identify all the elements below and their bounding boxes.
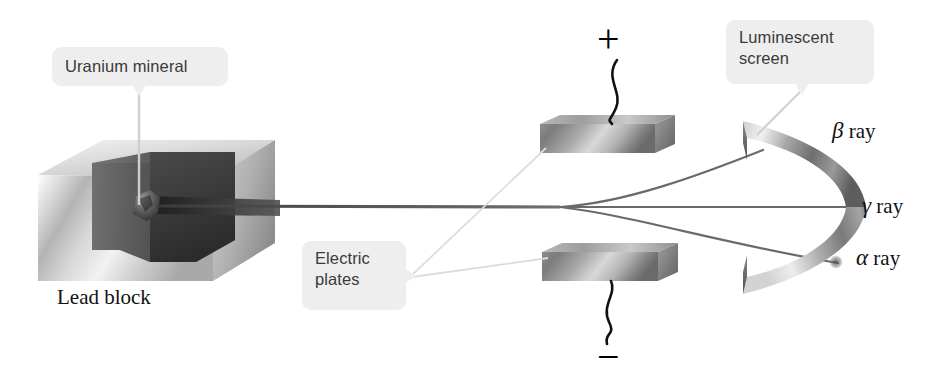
- beta-ray-text: ray: [843, 119, 875, 143]
- callout-uranium-mineral: Uranium mineral: [52, 47, 228, 86]
- collimated-beam: [157, 206, 560, 207]
- label-alpha-ray: α ray: [856, 245, 900, 271]
- leader-line-screen: [757, 92, 800, 135]
- electric-plate-positive: [540, 115, 675, 153]
- positive-polarity-sign: +: [597, 19, 620, 59]
- bottom-plate-top-face: [542, 243, 678, 252]
- beta-ray-path: [560, 150, 763, 207]
- alpha-ray-text: ray: [868, 246, 900, 270]
- screen-band-lower: [743, 207, 866, 294]
- gamma-symbol: γ: [862, 193, 871, 218]
- leader-line-plate-top: [412, 148, 546, 275]
- negative-polarity-sign: −: [597, 337, 620, 377]
- electric-plate-negative: [542, 243, 678, 281]
- lead-block: [38, 140, 280, 281]
- callout-electric-plates: Electric plates: [302, 241, 406, 310]
- beta-symbol: β: [832, 118, 843, 143]
- positive-plate-wire: [609, 60, 617, 124]
- label-gamma-ray: γ ray: [862, 193, 903, 219]
- leader-line-plate-bottom: [412, 258, 548, 277]
- alpha-symbol: α: [856, 245, 868, 270]
- radioactivity-separation-figure: Uranium mineral Luminescent screen Elect…: [0, 0, 943, 386]
- callout-luminescent-screen: Luminescent screen: [726, 20, 874, 84]
- top-plate-top-face: [540, 115, 675, 124]
- label-lead-block: Lead block: [57, 285, 151, 310]
- top-plate-front-face: [540, 124, 655, 153]
- callout-tail-uranium: [132, 85, 146, 96]
- label-beta-ray: β ray: [832, 118, 876, 144]
- bottom-plate-front-face: [542, 252, 658, 281]
- alpha-impact-spot: [829, 255, 843, 269]
- gamma-ray-text: ray: [871, 194, 903, 218]
